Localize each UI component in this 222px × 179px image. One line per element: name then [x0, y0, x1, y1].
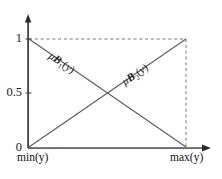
y-tick-label-0-5: 0.5 [0, 86, 22, 99]
fuzzy-membership-chart: 1 0.5 0 min(y) max(y) μB1(y) μB2(y) [0, 0, 222, 179]
x-axis-arrowhead-icon [202, 144, 211, 151]
x-axis-label-max: max(y) [170, 152, 203, 164]
x-axis-label-min: min(y) [17, 152, 48, 164]
y-tick-label-1: 1 [2, 32, 22, 45]
y-axis-line [27, 21, 29, 148]
x-axis-line [28, 147, 203, 148]
y-axis-arrowhead-icon [25, 14, 31, 23]
